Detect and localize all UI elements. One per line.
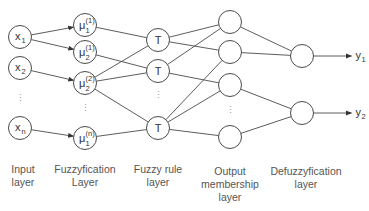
node-label: T (155, 34, 162, 46)
edge-T1-O1 (169, 25, 219, 37)
output-membership-node-O4 (219, 126, 242, 149)
node-circle (291, 102, 314, 125)
label-line: layer (268, 178, 344, 191)
node-label: x (15, 121, 21, 133)
rule-node-T1: T (147, 29, 170, 52)
node-label: x (15, 30, 21, 42)
node-label: T (155, 122, 162, 134)
input-node-xn: xn (9, 117, 32, 140)
edge-m22-T2 (96, 73, 146, 81)
ellipses: ⋮⋮⋮⋮ (16, 90, 235, 115)
output-membership-node-O2 (219, 41, 242, 64)
edge-O3-D2 (241, 89, 292, 109)
output-membership-node-O3 (219, 74, 242, 97)
label-line: layer (126, 176, 190, 189)
node-superscript: (1) (86, 43, 96, 52)
input-node-x2: x2 (9, 57, 32, 80)
label-line: layer (196, 191, 264, 204)
edge-T3-O2 (166, 60, 222, 119)
output-subscript: 1 (362, 55, 366, 64)
edge-O4-D2 (241, 117, 291, 134)
rule-layer-label: Fuzzy rule layer (126, 163, 190, 189)
node-label: μ (79, 77, 85, 89)
edge-xn-m1n (31, 130, 73, 137)
label-line: membership (196, 178, 264, 191)
node-subscript: 2 (86, 84, 90, 93)
node-label: μ (79, 46, 85, 58)
node-circle (219, 126, 242, 149)
label-line: layer (4, 176, 42, 189)
outputs: y1y2 (314, 49, 366, 121)
output-subscript: 2 (362, 112, 366, 121)
edge-m22-T1 (95, 46, 148, 77)
defuzzification-node-D1 (291, 45, 314, 68)
input-layer-label: Input layer (4, 163, 42, 189)
vertical-ellipsis-icon: ⋮ (154, 90, 163, 100)
edge-T2-O3 (169, 73, 218, 83)
edge-T2-O1 (168, 28, 221, 64)
node-subscript: 2 (22, 67, 26, 76)
node-subscript: 1 (22, 36, 26, 45)
edge-m11-T1 (96, 27, 146, 37)
edge-x1-m11 (31, 27, 73, 35)
edge-m1n-T3 (96, 130, 146, 137)
vertical-ellipsis-icon: ⋮ (16, 93, 25, 103)
label-line: Input (4, 163, 42, 176)
edge-x2-m22 (31, 71, 74, 81)
edge-m22-T3 (95, 89, 148, 122)
edge-x1-m21 (31, 40, 74, 50)
node-circle (219, 11, 242, 34)
fuzzification-node-m21: μ(1)2 (74, 41, 97, 64)
node-circle (219, 74, 242, 97)
vertical-ellipsis-icon: ⋮ (81, 103, 90, 113)
defuzzification-layer-label: Defuzzyfication layer (268, 165, 344, 191)
node-subscript: n (22, 127, 26, 136)
node-superscript: (1) (86, 16, 96, 25)
node-label: μ (79, 132, 85, 144)
label-line: Defuzzyfication (268, 165, 344, 178)
node-superscript: (n) (86, 129, 96, 138)
label-line: Layer (50, 176, 120, 189)
edge-T3-O4 (169, 129, 218, 135)
output-membership-node-O1 (219, 11, 242, 34)
fuzzification-node-m22: μ(2)2 (74, 72, 97, 95)
node-subscript: 1 (86, 139, 90, 148)
node-label: μ (79, 19, 85, 31)
label-line: Fuzzyfication (50, 163, 120, 176)
fuzzification-node-m11: μ(1)1 (74, 14, 97, 37)
node-circle (219, 41, 242, 64)
edge-T3-O3 (168, 91, 220, 122)
rule-node-T2: T (147, 60, 170, 83)
node-subscript: 1 (86, 26, 90, 35)
edge-O1-D1 (240, 27, 291, 51)
rule-node-T3: T (147, 117, 170, 140)
node-circle (291, 45, 314, 68)
defuzzification-node-D2 (291, 102, 314, 125)
vertical-ellipsis-icon: ⋮ (226, 105, 235, 115)
nodes: x1x2xnμ(1)1μ(1)2μ(2)2μ(n)1TTT (9, 11, 314, 150)
label-line: Fuzzy rule (126, 163, 190, 176)
fuzzification-node-m1n: μ(n)1 (74, 127, 97, 150)
node-label: x (15, 61, 21, 73)
label-line: Output (196, 165, 264, 178)
output-membership-layer-label: Output membership layer (196, 165, 264, 204)
node-superscript: (2) (86, 74, 96, 83)
fuzzification-layer-label: Fuzzyfication Layer (50, 163, 120, 189)
input-node-x1: x1 (9, 26, 32, 49)
node-label: T (155, 65, 162, 77)
edge-O2-D1 (241, 53, 290, 56)
node-subscript: 2 (86, 53, 90, 62)
